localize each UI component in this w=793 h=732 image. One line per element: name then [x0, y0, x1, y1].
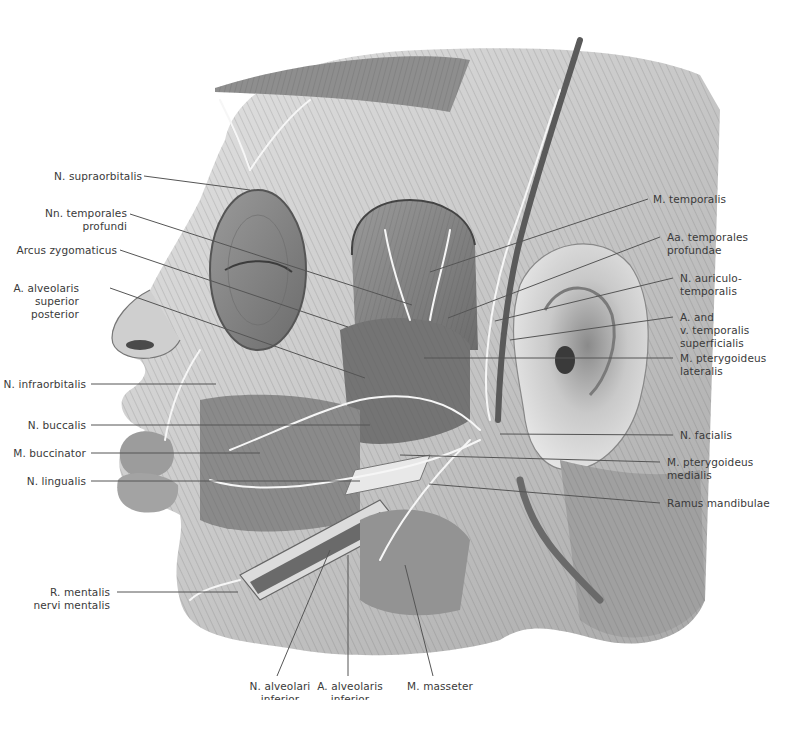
label-n-facialis: N. facialis	[680, 429, 732, 442]
leader-lines	[0, 0, 793, 732]
label-m-temporalis: M. temporalis	[653, 193, 726, 206]
label-m-pterygoideus-medialis: M. pterygoideus medialis	[667, 456, 753, 482]
label-m-pterygoideus-lateralis: M. pterygoideus lateralis	[680, 352, 766, 378]
label-ramus-mandibulae: Ramus mandibulae	[667, 497, 770, 510]
label-n-infraorbitalis: N. infraorbitalis	[4, 378, 86, 391]
label-r-mentalis: R. mentalis nervi mentalis	[34, 586, 111, 612]
label-m-buccinator: M. buccinator	[13, 447, 86, 460]
label-n-auriculotemporalis: N. auriculo- temporalis	[680, 272, 742, 298]
label-nn-temporales-profundi: Nn. temporales profundi	[45, 207, 127, 233]
anatomy-figure: N. supraorbitalis Nn. temporales profund…	[0, 0, 793, 732]
label-n-lingualis: N. lingualis	[27, 475, 86, 488]
label-m-masseter: M. masseter	[400, 680, 480, 693]
label-arcus-zygomaticus: Arcus zygomaticus	[16, 244, 117, 257]
label-a-alveolaris-inferior: A. alveolaris inferior	[300, 680, 400, 700]
label-a-alveolaris-superior-posterior: A. alveolaris superior posterior	[14, 282, 79, 321]
label-a-v-temporalis-superficialis: A. and v. temporalis superficialis	[680, 311, 749, 350]
label-n-supraorbitalis: N. supraorbitalis	[54, 170, 142, 183]
label-n-buccalis: N. buccalis	[28, 419, 86, 432]
label-aa-temporales-profundae: Aa. temporales profundae	[667, 231, 748, 257]
